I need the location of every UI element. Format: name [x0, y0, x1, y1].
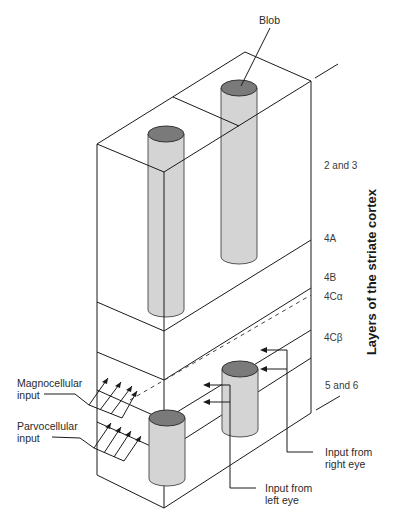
top-face: [97, 52, 311, 172]
layer-label-4b: 4B: [324, 272, 336, 283]
magnocellular-line2: input: [17, 389, 82, 401]
blob-column-left: [148, 126, 184, 317]
layer-label-5-6: 5 and 6: [325, 380, 358, 391]
axis-title: Layers of the striate cortex: [364, 189, 379, 355]
layer-label-4c-beta: 4Cβ: [324, 332, 343, 343]
right-eye-label: Input from right eye: [325, 446, 372, 470]
left-eye-line1: Input from: [265, 482, 312, 494]
magnocellular-label: Magnocellular input: [17, 377, 82, 401]
magnocellular-line1: Magnocellular: [17, 377, 82, 389]
layer-label-4c-alpha: 4Cα: [324, 291, 343, 302]
right-eye-line1: Input from: [325, 446, 372, 458]
left-eye-label: Input from left eye: [265, 482, 312, 506]
blob-label: Blob: [259, 14, 280, 26]
parvocellular-line1: Parvocellular: [17, 420, 78, 432]
parvocellular-line2: input: [17, 432, 78, 444]
right-eye-line2: right eye: [325, 458, 372, 470]
left-eye-line2: left eye: [265, 494, 312, 506]
blob-column-right: [221, 80, 257, 264]
lower-column-left: [149, 410, 185, 486]
parvocellular-label: Parvocellular input: [17, 420, 78, 444]
layer-label-2-3: 2 and 3: [324, 160, 357, 171]
lower-column-right: [222, 361, 258, 437]
layer-label-4a: 4A: [324, 233, 336, 244]
